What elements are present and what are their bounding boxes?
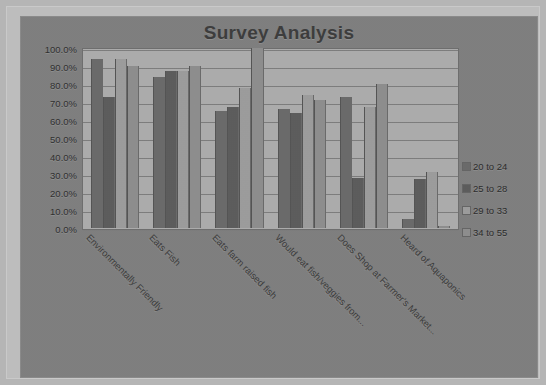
bar-group [146, 50, 208, 228]
legend-item-label: 29 to 33 [473, 205, 507, 216]
chart-legend[interactable]: 20 to 2425 to 2829 to 3334 to 55 [463, 155, 535, 243]
bar[interactable] [340, 97, 352, 228]
x-axis-category-label: Eats Fish [147, 232, 183, 268]
bar[interactable] [376, 84, 388, 228]
legend-item[interactable]: 34 to 55 [463, 221, 535, 243]
photo-frame-inner: Survey Analysis 100.0%90.0%80.0%70.0%60.… [6, 6, 540, 379]
x-axis-category-label: Heard of Aquaponics [398, 232, 468, 302]
bar[interactable] [438, 226, 450, 228]
x-axis-category-label: Eats farm raised fish [210, 232, 279, 301]
bar[interactable] [189, 66, 201, 228]
legend-swatch-icon [463, 163, 470, 170]
bar[interactable] [103, 97, 115, 228]
bar[interactable] [302, 95, 314, 228]
y-axis-tick-label: 10.0% [50, 206, 77, 217]
bar[interactable] [227, 107, 239, 228]
legend-item[interactable]: 20 to 24 [463, 155, 535, 177]
bar-group [333, 50, 395, 228]
bar[interactable] [314, 100, 326, 228]
bar[interactable] [402, 219, 414, 228]
bar[interactable] [426, 172, 438, 228]
bar[interactable] [153, 77, 165, 228]
bar[interactable] [91, 59, 103, 228]
bar[interactable] [290, 113, 302, 228]
y-axis-tick-label: 60.0% [50, 116, 77, 127]
legend-item-label: 25 to 28 [473, 183, 507, 194]
chart-title: Survey Analysis [20, 22, 538, 44]
legend-item[interactable]: 29 to 33 [463, 199, 535, 221]
y-axis-tick-label: 30.0% [50, 170, 77, 181]
y-axis-tick-label: 90.0% [50, 62, 77, 73]
bar-group [271, 50, 333, 228]
legend-item[interactable]: 25 to 28 [463, 177, 535, 199]
legend-item-label: 20 to 24 [473, 161, 507, 172]
bar[interactable] [165, 71, 177, 228]
y-axis-tick-label: 0.0% [55, 224, 77, 235]
bar[interactable] [127, 66, 139, 228]
chart-canvas[interactable]: Survey Analysis 100.0%90.0%80.0%70.0%60.… [20, 16, 538, 378]
y-axis-tick-label: 40.0% [50, 152, 77, 163]
legend-swatch-icon [463, 207, 470, 214]
bar[interactable] [215, 111, 227, 228]
y-axis-tick-label: 100.0% [45, 44, 77, 55]
bar[interactable] [364, 107, 376, 228]
y-axis-tick-label: 70.0% [50, 98, 77, 109]
bar[interactable] [239, 88, 251, 228]
plot-area-wrapper: 100.0%90.0%80.0%70.0%60.0%50.0%40.0%30.0… [82, 48, 459, 230]
bar-groups [84, 50, 457, 228]
y-axis-tick-label: 20.0% [50, 188, 77, 199]
gridline [83, 230, 458, 231]
plot-area [82, 48, 459, 230]
photo-frame: Survey Analysis 100.0%90.0%80.0%70.0%60.… [0, 0, 546, 385]
bar[interactable] [414, 179, 426, 228]
y-axis-tick-label: 50.0% [50, 134, 77, 145]
bar[interactable] [115, 59, 127, 228]
bar[interactable] [177, 71, 189, 228]
legend-swatch-icon [463, 229, 470, 236]
bar[interactable] [352, 178, 364, 228]
x-axis-category-label: Does Shop at Farmer's Market... [336, 232, 441, 337]
bar[interactable] [251, 48, 263, 228]
bar-group [395, 50, 457, 228]
bar-group [84, 50, 146, 228]
legend-item-label: 34 to 55 [473, 227, 507, 238]
bar-group [208, 50, 270, 228]
legend-swatch-icon [463, 185, 470, 192]
bar[interactable] [278, 109, 290, 228]
y-axis-tick-label: 80.0% [50, 80, 77, 91]
